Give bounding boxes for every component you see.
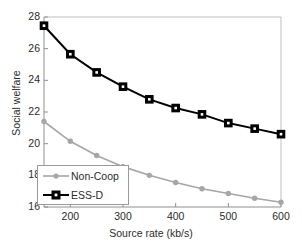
data-point-marker [41,119,46,124]
x-tick-label: 200 [50,211,90,222]
legend-label-non-coop: Non-Coop [71,170,119,182]
data-point-marker [278,200,283,205]
x-tick-labels: 200300400500600 [0,211,302,227]
legend-item-non-coop[interactable]: Non-Coop [38,166,128,185]
legend-item-ess-d[interactable]: ESS-D [38,185,128,204]
y-tick-label: 28 [14,11,40,21]
legend-swatch-ess-d [41,188,71,202]
data-point-marker-inner [174,107,177,110]
data-point-marker [199,186,204,191]
data-point-marker-inner [201,113,204,116]
data-point-marker [94,153,99,158]
x-tick-label: 400 [156,211,196,222]
series-ess-d [40,22,284,138]
data-point-marker [226,191,231,196]
x-tick-label: 300 [103,211,143,222]
x-axis-label: Source rate (kb/s) [0,227,302,239]
data-point-marker-inner [227,122,230,125]
series-line [44,26,281,134]
legend-swatch-non-coop [41,169,71,183]
legend-label-ess-d: ESS-D [71,189,103,201]
data-point-marker-inner [122,85,125,88]
y-axis-label: Social welfare [10,33,22,173]
data-point-marker-inner [253,127,256,130]
chart-figure: 16182022242628 200300400500600 Source ra… [0,0,302,252]
x-tick-label: 500 [208,211,248,222]
data-point-marker-inner [43,24,46,27]
data-point-marker [68,139,73,144]
data-point-marker [147,173,152,178]
data-point-marker-inner [280,133,283,136]
y-axis-label-wrapper: Social welfare [10,33,26,173]
data-point-marker-inner [148,98,151,101]
data-point-marker-inner [69,53,72,56]
chart-legend[interactable]: Non-Coop ESS-D [37,165,129,205]
x-tick-label: 600 [261,211,301,222]
data-point-marker [252,196,257,201]
data-point-marker [173,180,178,185]
data-point-marker-inner [95,71,98,74]
